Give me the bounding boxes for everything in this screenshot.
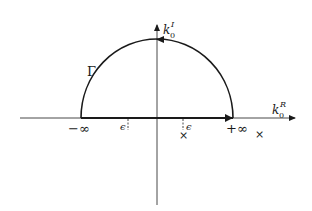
imaginary-axis-label-sup: I xyxy=(170,20,175,29)
plus-infinity-label: +∞ xyxy=(226,121,248,136)
contour-label: Γ xyxy=(87,64,96,79)
epsilon-left-label: ϵ xyxy=(120,121,126,132)
minus-infinity-label: −∞ xyxy=(68,121,90,136)
imaginary-axis-label-sub: 0 xyxy=(170,31,175,40)
pole-marker-beyond-infinity: × xyxy=(255,128,264,141)
real-axis-label-sub: 0 xyxy=(279,111,284,120)
contour-diagram: Γ k 0 I k 0 R −∞ +∞ ϵ ϵ × × xyxy=(0,0,312,211)
pole-marker-near-epsilon: × xyxy=(179,129,188,142)
real-axis-label-sup: R xyxy=(279,100,286,109)
